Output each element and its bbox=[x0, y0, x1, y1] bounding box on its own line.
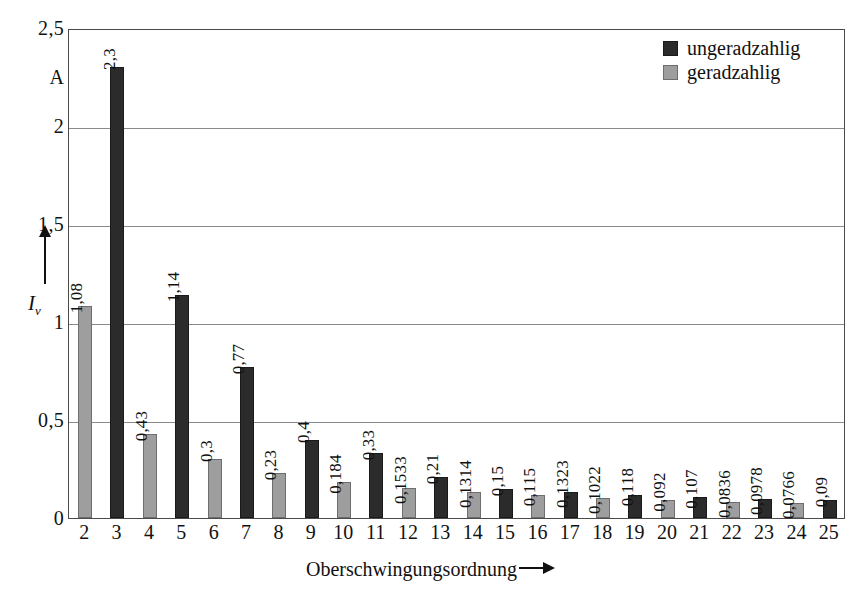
legend-swatch-even bbox=[663, 65, 678, 80]
bar-group: 0,77 bbox=[231, 28, 263, 518]
bar-value-label: 0,184 bbox=[327, 454, 344, 493]
bar-value-label: 2,3 bbox=[101, 48, 118, 70]
y-axis-unit-label: A bbox=[20, 67, 64, 87]
bar-group: 0,184 bbox=[328, 28, 360, 518]
bar-value-label: 0,15 bbox=[489, 465, 506, 496]
bar-value-label: 0,1323 bbox=[554, 460, 571, 508]
x-axis-tick-label: 15 bbox=[489, 521, 521, 543]
legend-label: geradzahlig bbox=[687, 61, 780, 83]
x-axis-tick-label: 2 bbox=[68, 521, 100, 543]
bar-value-label: 0,33 bbox=[360, 430, 377, 461]
x-axis-tick-label: 19 bbox=[618, 521, 650, 543]
x-axis-tick-label: 24 bbox=[780, 521, 812, 543]
bar-group: 0,0836 bbox=[717, 28, 749, 518]
bar-group: 0,09 bbox=[814, 28, 846, 518]
plot-area: 1,082,30,431,140,30,770,230,40,1840,330,… bbox=[68, 29, 845, 519]
bar-value-label: 0,0978 bbox=[748, 467, 765, 515]
bar-group: 0,092 bbox=[652, 28, 684, 518]
x-axis-title: Oberschwingungsordnung bbox=[306, 558, 517, 580]
x-axis-tick-label: 3 bbox=[100, 521, 132, 543]
x-axis-tick-label: 12 bbox=[392, 521, 424, 543]
bar-value-label: 1,14 bbox=[165, 271, 182, 302]
bar-value-label: 0,0766 bbox=[780, 471, 797, 519]
bar-value-label: 0,092 bbox=[651, 472, 668, 511]
bar-value-label: 0,77 bbox=[230, 344, 247, 375]
bar-group: 1,14 bbox=[166, 28, 198, 518]
x-axis-tick-label: 23 bbox=[748, 521, 780, 543]
x-axis-tick-label: 22 bbox=[716, 521, 748, 543]
bar[interactable] bbox=[175, 295, 189, 518]
bar-group: 0,1323 bbox=[555, 28, 587, 518]
y-axis-tick-label: 0,5 bbox=[20, 410, 64, 430]
bar-value-label: 0,23 bbox=[262, 450, 279, 481]
y-axis-tick-label: 2 bbox=[20, 116, 64, 136]
x-axis-tick-label: 5 bbox=[165, 521, 197, 543]
x-axis-tick-label: 20 bbox=[651, 521, 683, 543]
bar-group: 0,1022 bbox=[587, 28, 619, 518]
bar-group: 0,0766 bbox=[781, 28, 813, 518]
bar-value-label: 0,1022 bbox=[586, 466, 603, 514]
bar-value-label: 0,1533 bbox=[392, 456, 409, 504]
y-axis-tick-label: 1,5 bbox=[20, 214, 64, 234]
x-axis-arrow-icon bbox=[519, 567, 553, 569]
x-axis-tick-label: 4 bbox=[133, 521, 165, 543]
bar-value-label: 0,09 bbox=[813, 477, 830, 508]
y-axis-tick-label: 0 bbox=[20, 508, 64, 528]
bar[interactable] bbox=[369, 453, 383, 518]
x-axis-tick-label: 9 bbox=[295, 521, 327, 543]
bar[interactable] bbox=[240, 367, 254, 518]
y-axis: Iv 00,511,522,5A bbox=[14, 0, 64, 592]
legend-swatch-odd bbox=[663, 41, 678, 56]
x-axis-tick-label: 18 bbox=[586, 521, 618, 543]
bar-group: 0,21 bbox=[425, 28, 457, 518]
bar-value-label: 0,43 bbox=[133, 410, 150, 441]
x-axis-tick-label: 14 bbox=[457, 521, 489, 543]
bar-value-label: 0,3 bbox=[198, 440, 215, 462]
x-axis-tick-label: 16 bbox=[521, 521, 553, 543]
bar-group: 0,23 bbox=[263, 28, 295, 518]
bar-group: 0,4 bbox=[296, 28, 328, 518]
legend-label: ungeradzahlig bbox=[687, 37, 800, 59]
legend: ungeradzahliggeradzahlig bbox=[663, 36, 800, 84]
bar[interactable] bbox=[110, 67, 124, 518]
bar-value-label: 0,107 bbox=[683, 469, 700, 508]
bar-group: 0,33 bbox=[360, 28, 392, 518]
x-axis-tick-label: 11 bbox=[359, 521, 391, 543]
y-axis-tick-label: 1 bbox=[20, 312, 64, 332]
legend-item[interactable]: geradzahlig bbox=[663, 60, 800, 84]
bar[interactable] bbox=[78, 306, 92, 518]
bar-group: 0,107 bbox=[684, 28, 716, 518]
bar[interactable] bbox=[208, 459, 222, 518]
x-axis-tick-label: 7 bbox=[230, 521, 262, 543]
legend-item[interactable]: ungeradzahlig bbox=[663, 36, 800, 60]
bar-value-label: 1,08 bbox=[68, 283, 85, 314]
harmonics-bar-chart: Iv 00,511,522,5A 1,082,30,431,140,30,770… bbox=[0, 0, 859, 592]
bar-group: 0,15 bbox=[490, 28, 522, 518]
bar-group: 0,3 bbox=[199, 28, 231, 518]
bar-group: 0,0978 bbox=[749, 28, 781, 518]
x-axis-tick-label: 8 bbox=[262, 521, 294, 543]
y-axis-arrow-icon bbox=[44, 236, 46, 284]
x-axis-tick-label: 21 bbox=[683, 521, 715, 543]
bar[interactable] bbox=[143, 434, 157, 518]
bar-group: 2,3 bbox=[101, 28, 133, 518]
x-axis-tick-label: 17 bbox=[554, 521, 586, 543]
bar-value-label: 0,1314 bbox=[457, 460, 474, 508]
bar-group: 0,1314 bbox=[458, 28, 490, 518]
bar-value-label: 0,4 bbox=[295, 421, 312, 443]
bar-value-label: 0,118 bbox=[619, 468, 636, 507]
bar-group: 0,118 bbox=[619, 28, 651, 518]
bar-group: 0,1533 bbox=[393, 28, 425, 518]
bar-value-label: 0,21 bbox=[424, 454, 441, 485]
bar-value-label: 0,0836 bbox=[716, 470, 733, 518]
x-axis-title-group: Oberschwingungsordnung bbox=[0, 556, 859, 580]
x-axis-tick-label: 13 bbox=[424, 521, 456, 543]
y-axis-tick-label: 2,5 bbox=[20, 18, 64, 38]
bar-group: 1,08 bbox=[69, 28, 101, 518]
bar-group: 0,115 bbox=[522, 28, 554, 518]
bar-group: 0,43 bbox=[134, 28, 166, 518]
bar[interactable] bbox=[305, 440, 319, 518]
x-axis-tick-label: 10 bbox=[327, 521, 359, 543]
x-axis-tick-label: 6 bbox=[198, 521, 230, 543]
bar-value-label: 0,115 bbox=[521, 468, 538, 507]
